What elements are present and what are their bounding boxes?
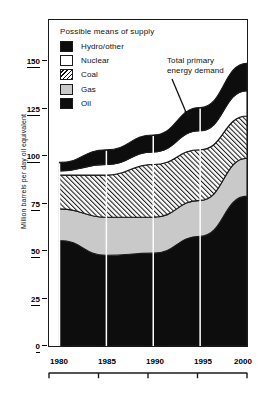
legend-label-hydro-other: Hydro/other [81, 42, 124, 51]
legend-item-gas: Gas [60, 84, 154, 95]
chart-figure: Million barrels per day oil equivalent 1… [0, 0, 267, 400]
legend-swatch-coal [60, 69, 73, 80]
annotation-line-2: energy demand [167, 66, 224, 76]
y-tick-100: 100 [14, 152, 40, 163]
y-tick-0: 0 [14, 342, 40, 353]
x-tick-2000: 2000 [234, 357, 252, 366]
legend-swatch-nuclear [60, 55, 73, 66]
legend-item-coal: Coal [60, 69, 154, 80]
y-tick-50: 50 [14, 247, 40, 258]
y-tick-75: 75 [14, 200, 40, 211]
annotation-line-1: Total primary [167, 56, 224, 66]
x-tick-1990: 1990 [146, 357, 164, 366]
legend-label-coal: Coal [81, 70, 98, 79]
legend-swatch-gas [60, 84, 73, 95]
plot-left-margin [49, 20, 60, 346]
legend-label-nuclear: Nuclear [81, 56, 109, 65]
y-tick-125: 125 [14, 105, 40, 116]
legend-item-hydro-other: Hydro/other [60, 41, 154, 52]
x-tick-1985: 1985 [98, 357, 116, 366]
annotation-total-primary-energy-demand: Total primary energy demand [167, 56, 224, 75]
y-tick-25: 25 [14, 295, 40, 306]
y-tick-150: 150 [14, 57, 40, 68]
x-axis [48, 372, 248, 380]
legend-swatch-oil [60, 98, 73, 109]
legend-label-gas: Gas [81, 85, 96, 94]
x-tick-1995: 1995 [194, 357, 212, 366]
legend-item-oil: Oil [60, 98, 154, 109]
legend-item-nuclear: Nuclear [60, 55, 154, 66]
legend-title: Possible means of supply [60, 27, 154, 36]
legend-label-oil: Oil [81, 99, 91, 108]
legend: Possible means of supply Hydro/other Nuc… [60, 27, 154, 112]
legend-swatch-hydro-other [60, 41, 73, 52]
x-tick-1980: 1980 [50, 357, 68, 366]
